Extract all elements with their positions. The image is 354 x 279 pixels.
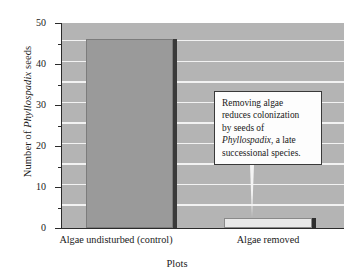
annotation-line-5: successional species.: [222, 147, 315, 159]
y-tick-40: 40: [55, 64, 62, 65]
y-tick-0: 0: [55, 228, 62, 229]
x-category-label-removed: Algae removed: [208, 234, 328, 245]
y-tick-minor-25: [58, 126, 62, 127]
annotation-callout: Removing algae reduces colonization by s…: [214, 91, 322, 165]
y-axis-title: Number of Phyllospadix seeds: [22, 12, 33, 212]
y-tick-label-20: 20: [36, 141, 46, 151]
y-tick-label-40: 40: [36, 59, 46, 69]
y-tick-label-0: 0: [41, 223, 46, 233]
y-tick-label-30: 30: [36, 100, 46, 110]
annotation-line-4: Phyllospadix, a late: [222, 134, 315, 146]
bar-shadow-algae-undisturbed: [173, 39, 177, 228]
y-tick-minor-45: [58, 44, 62, 45]
x-axis-title: Plots: [0, 258, 354, 269]
bar-chart-figure: Number of Phyllospadix seeds 50 40 30 20…: [0, 0, 354, 279]
y-axis-title-italic: Phyllospadix: [22, 72, 33, 128]
y-tick-minor-5: [58, 208, 62, 209]
y-tick-30: 30: [55, 105, 62, 106]
bar-face-algae-removed: [224, 218, 312, 228]
y-axis-title-suffix: seeds: [22, 46, 33, 72]
bar-shadow-algae-removed: [312, 218, 316, 228]
y-axis-title-prefix: Number of: [22, 128, 33, 177]
x-category-label-control: Algae undisturbed (control): [41, 234, 191, 245]
bar-algae-undisturbed: [86, 39, 173, 228]
annotation-line-3: by seeds of: [222, 122, 315, 134]
annotation-line-1: Removing algae: [222, 97, 315, 109]
y-tick-minor-35: [58, 85, 62, 86]
annotation-line-4-rest: , a late: [271, 135, 296, 145]
bar-algae-removed: [224, 218, 312, 228]
y-tick-label-10: 10: [36, 182, 46, 192]
y-tick-10: 10: [55, 187, 62, 188]
annotation-species-name: Phyllospadix: [222, 135, 271, 145]
y-tick-20: 20: [55, 146, 62, 147]
y-tick-50: 50: [55, 23, 62, 24]
y-tick-label-50: 50: [36, 18, 46, 28]
bar-face-algae-undisturbed: [86, 39, 173, 228]
y-tick-minor-15: [58, 167, 62, 168]
callout-pointer: [250, 165, 254, 217]
annotation-line-2: reduces colonization: [222, 109, 315, 121]
